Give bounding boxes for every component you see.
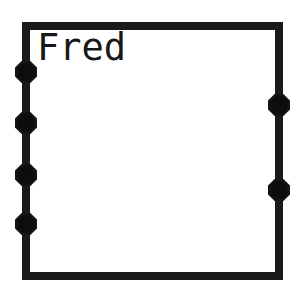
diagram-canvas: Fred	[0, 0, 305, 295]
left-port-1[interactable]	[15, 61, 37, 83]
left-port-3[interactable]	[15, 164, 37, 186]
node-title-label: Fred	[37, 28, 126, 68]
left-port-2[interactable]	[15, 112, 37, 134]
left-port-4[interactable]	[15, 213, 37, 235]
